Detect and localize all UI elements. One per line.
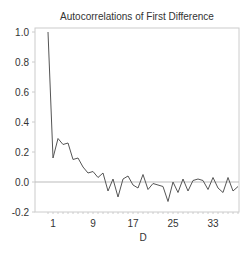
y-axis: -0.20.00.20.40.60.81.0 [12, 27, 35, 218]
y-tick-label: 0.0 [15, 177, 29, 188]
y-tick-label: -0.2 [12, 207, 30, 218]
chart-title: Autocorrelations of First Difference [60, 11, 214, 22]
x-tick-label: 25 [167, 218, 179, 229]
y-tick-label: 0.8 [15, 57, 29, 68]
plot-frame [35, 28, 239, 212]
x-tick-label: 1 [50, 218, 56, 229]
x-axis-label: D [139, 232, 146, 243]
x-tick-label: 9 [90, 218, 96, 229]
autocorrelation-chart: Autocorrelations of First Difference -0.… [0, 0, 249, 257]
y-tick-label: 1.0 [15, 27, 29, 38]
y-tick-label: 0.6 [15, 87, 29, 98]
x-tick-label: 33 [207, 218, 219, 229]
y-tick-label: 0.2 [15, 147, 29, 158]
autocorrelation-line [48, 32, 238, 202]
x-tick-label: 17 [127, 218, 139, 229]
y-tick-label: 0.4 [15, 117, 29, 128]
x-axis: 19172533 [48, 212, 238, 229]
